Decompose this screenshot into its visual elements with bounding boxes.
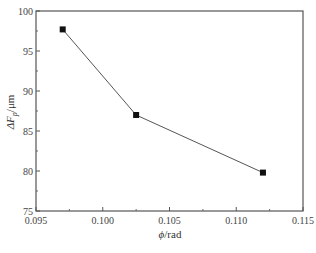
data-series	[60, 26, 266, 175]
x-tick-label: 0.110	[225, 215, 247, 226]
tick-labels: 0.0950.1000.1050.1100.1157580859095100	[18, 6, 314, 227]
data-point-marker	[60, 26, 66, 32]
data-point-marker	[260, 170, 266, 176]
y-tick-label: 75	[23, 206, 33, 217]
y-tick-label: 80	[23, 166, 33, 177]
x-tick-label: 0.095	[25, 215, 48, 226]
x-axis-title: ϕ/rad	[159, 228, 182, 240]
x-tick-label: 0.115	[292, 215, 314, 226]
y-tick-label: 85	[23, 126, 33, 137]
y-tick-label: 95	[23, 46, 33, 57]
y-tick-label: 100	[18, 6, 33, 17]
plot-border	[36, 11, 303, 211]
chart: 0.0950.1000.1050.1100.1157580859095100 ϕ…	[0, 0, 316, 253]
series-line	[63, 29, 263, 172]
axis-ticks	[36, 11, 303, 211]
plot-frame	[36, 11, 303, 211]
y-tick-label: 90	[23, 86, 33, 97]
y-axis-title: ΔFp/μm	[4, 94, 19, 130]
data-point-marker	[133, 112, 139, 118]
x-tick-label: 0.100	[92, 215, 115, 226]
x-tick-label: 0.105	[158, 215, 181, 226]
